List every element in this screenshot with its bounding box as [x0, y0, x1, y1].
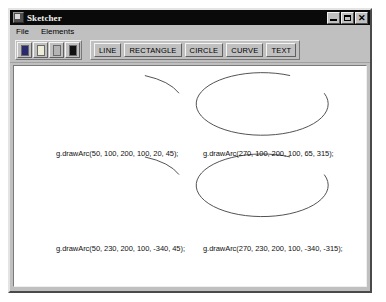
menu-item-elements[interactable]: Elements [39, 26, 76, 37]
canvas-container: g.drawArc(50, 100, 200, 100, 20, 45); g.… [10, 63, 370, 291]
app-icon [13, 12, 24, 23]
menu-bar: File Elements [10, 25, 370, 38]
arc-top-right [196, 73, 328, 136]
curve-button[interactable]: CURVE [226, 43, 263, 57]
maximize-button[interactable] [341, 12, 354, 24]
arc-bottom-right [196, 154, 328, 217]
arc-caption-top-left: g.drawArc(50, 100, 200, 100, 20, 45); [56, 149, 178, 158]
arc-layer [14, 66, 366, 286]
menu-item-file[interactable]: File [14, 26, 31, 37]
sketcher-window: Sketcher ✕ File Elements [8, 8, 372, 293]
maximize-icon [344, 15, 351, 21]
color-swatch-yellow [37, 45, 45, 56]
color-button-group [15, 40, 82, 60]
color-button-black[interactable] [65, 42, 80, 58]
arc-caption-top-right: g.drawArc(270, 100, 200, 100, 65, 315); [203, 149, 334, 158]
title-bar[interactable]: Sketcher ✕ [10, 10, 370, 25]
arc-caption-bottom-right: g.drawArc(270, 230, 200, 100, -340, -315… [203, 244, 343, 253]
close-icon: ✕ [356, 13, 367, 23]
screenshot-root: Sketcher ✕ File Elements [0, 0, 386, 302]
minimize-button[interactable] [327, 12, 340, 24]
tool-bar: LINE RECTANGLE CIRCLE CURVE TEXT [10, 38, 370, 63]
minimize-icon [330, 19, 337, 21]
arc-bottom-left [145, 157, 179, 175]
arc-top-left [145, 76, 179, 94]
circle-button[interactable]: CIRCLE [185, 43, 224, 57]
shape-button-group: LINE RECTANGLE CIRCLE CURVE TEXT [90, 40, 300, 60]
rectangle-button[interactable]: RECTANGLE [124, 43, 181, 57]
drawing-canvas[interactable]: g.drawArc(50, 100, 200, 100, 20, 45); g.… [13, 65, 367, 287]
color-swatch-gray [53, 45, 61, 56]
text-button[interactable]: TEXT [266, 43, 296, 57]
arc-caption-bottom-left: g.drawArc(50, 230, 200, 100, -340, 45); [56, 244, 185, 253]
close-button[interactable]: ✕ [355, 12, 368, 24]
window-controls: ✕ [327, 12, 368, 24]
color-swatch-black [69, 45, 77, 56]
color-button-gray[interactable] [49, 42, 64, 58]
window-title: Sketcher [27, 13, 327, 23]
line-button[interactable]: LINE [94, 43, 121, 57]
color-swatch-blue [21, 45, 29, 56]
color-button-yellow[interactable] [33, 42, 48, 58]
color-button-blue[interactable] [17, 42, 32, 58]
